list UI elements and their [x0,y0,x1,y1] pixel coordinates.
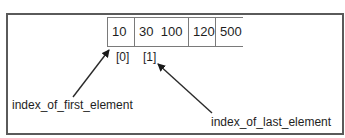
array-cell: 500 [215,18,243,46]
array-boxes: 10 30 100 120 500 [107,17,243,47]
array-cell: 30 100 [134,18,188,46]
index-label-0: [0] [116,50,129,64]
array-cell: 10 [107,18,134,46]
index-of-first-element-label: index_of_first_element [12,98,133,112]
index-label-1: [1] [143,50,156,64]
index-of-last-element-label: index_of_last_element [211,115,331,129]
array-cell: 120 [188,18,215,46]
